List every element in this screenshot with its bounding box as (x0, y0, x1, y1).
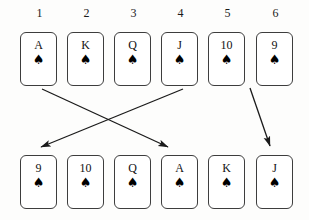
spade-icon: ♠ (269, 53, 281, 67)
bottom-card-2: 10 ♠ (67, 155, 104, 209)
card-rank: Q (128, 162, 137, 175)
spade-icon: ♠ (174, 53, 186, 67)
card-mapping-diagram: 1 2 3 4 5 6 A ♠ K ♠ Q ♠ J ♠ 10 ♠ 9 ♠ 9 ♠… (0, 0, 309, 220)
bottom-card-4: A ♠ (161, 155, 198, 209)
card-rank: K (81, 39, 90, 52)
arrow-9-to-position-6 (250, 88, 270, 146)
column-label-2: 2 (67, 6, 106, 20)
spade-icon: ♠ (33, 176, 45, 190)
bottom-card-3: Q ♠ (114, 155, 151, 209)
column-label-5: 5 (208, 6, 247, 20)
column-label-3: 3 (114, 6, 153, 20)
arrow-a-to-position-4 (42, 89, 168, 147)
card-rank: 9 (272, 39, 278, 52)
top-card-1: A ♠ (20, 32, 57, 86)
spade-icon: ♠ (33, 53, 45, 67)
card-rank: J (272, 162, 277, 175)
spade-icon: ♠ (269, 176, 281, 190)
top-card-4: J ♠ (161, 32, 198, 86)
card-rank: K (222, 162, 231, 175)
column-label-6: 6 (256, 6, 295, 20)
spade-icon: ♠ (127, 176, 139, 190)
bottom-card-1: 9 ♠ (20, 155, 57, 209)
spade-icon: ♠ (127, 53, 139, 67)
card-rank: A (175, 162, 184, 175)
spade-icon: ♠ (80, 53, 92, 67)
bottom-card-5: K ♠ (208, 155, 245, 209)
spade-icon: ♠ (221, 53, 233, 67)
top-card-5: 10 ♠ (208, 32, 245, 86)
bottom-card-6: J ♠ (256, 155, 293, 209)
spade-icon: ♠ (174, 176, 186, 190)
card-rank: 10 (80, 162, 92, 175)
top-card-2: K ♠ (67, 32, 104, 86)
top-card-6: 9 ♠ (256, 32, 293, 86)
column-label-1: 1 (20, 6, 59, 20)
card-rank: 9 (36, 162, 42, 175)
card-rank: A (34, 39, 43, 52)
column-label-4: 4 (161, 6, 200, 20)
top-card-3: Q ♠ (114, 32, 151, 86)
card-rank: J (177, 39, 182, 52)
spade-icon: ♠ (80, 176, 92, 190)
arrow-j-to-position-1 (41, 89, 183, 147)
spade-icon: ♠ (221, 176, 233, 190)
card-rank: 10 (221, 39, 233, 52)
card-rank: Q (128, 39, 137, 52)
